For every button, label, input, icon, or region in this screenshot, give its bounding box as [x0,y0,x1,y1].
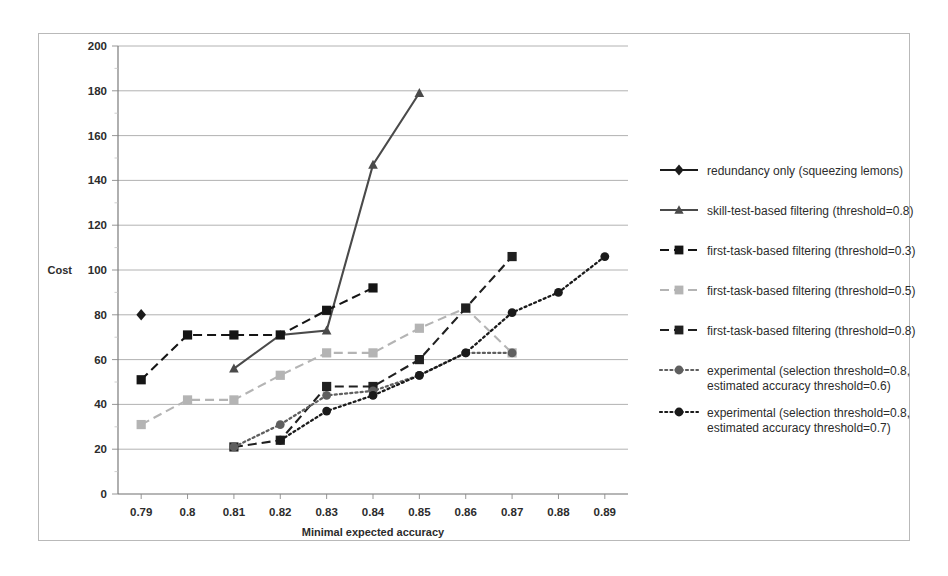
legend-item[interactable]: experimental (selection threshold=0.8,es… [660,406,910,435]
legend-item[interactable]: experimental (selection threshold=0.8,es… [660,364,910,393]
chart-legend: redundancy only (squeezing lemons)skill-… [660,164,915,435]
legend-marker [675,408,684,417]
data-series [230,348,517,451]
x-axis-title: Minimal expected accuracy [302,526,445,538]
data-point [183,330,192,339]
y-axis-tick-label: 20 [94,443,107,455]
legend-marker [675,286,684,295]
data-point [230,443,239,452]
data-series [136,309,146,321]
y-axis-tick-label: 60 [94,354,107,366]
data-point [137,420,146,429]
data-point [508,348,517,357]
y-axis-tick-label: 100 [88,264,107,276]
data-point [507,252,516,261]
data-point [229,395,238,404]
x-axis-tick-label: 0.83 [315,506,337,518]
data-point [600,252,609,261]
x-axis-tick-label: 0.85 [408,506,431,518]
x-axis-tick-label: 0.87 [501,506,523,518]
data-point [322,382,331,391]
legend-label: first-task-based filtering (threshold=0.… [707,284,915,298]
legend-label: estimated accuracy threshold=0.6) [707,379,891,393]
x-axis: 0.790.80.810.820.830.840.850.860.870.880… [118,494,628,538]
data-point [276,371,285,380]
y-axis-tick-label: 160 [88,130,107,142]
x-axis-tick-label: 0.8 [180,506,197,518]
data-point [137,375,146,384]
data-point [322,348,331,357]
x-axis-tick-label: 0.89 [594,506,616,518]
data-point [415,371,424,380]
data-point [183,395,192,404]
data-point [461,303,470,312]
x-axis-tick-label: 0.82 [269,506,291,518]
x-axis-tick-label: 0.88 [547,506,570,518]
series-line [141,288,373,380]
data-point [322,391,331,400]
x-axis-tick-label: 0.86 [455,506,477,518]
series-line [234,353,512,447]
legend-item[interactable]: redundancy only (squeezing lemons) [660,164,903,178]
data-series [229,88,424,372]
legend-label: first-task-based filtering (threshold=0.… [707,244,915,258]
chart-figure: 020406080100120140160180200Cost0.790.80.… [0,0,948,576]
data-point [276,330,285,339]
data-series [137,283,378,384]
chart-canvas: 020406080100120140160180200Cost0.790.80.… [0,0,948,576]
legend-label: redundancy only (squeezing lemons) [707,164,903,178]
y-axis-tick-label: 140 [88,174,107,186]
legend-item[interactable]: skill-test-based filtering (threshold=0.… [660,204,913,218]
legend-marker [674,165,683,176]
y-axis-title: Cost [48,264,73,276]
y-axis-tick-label: 180 [88,85,107,97]
legend-label: skill-test-based filtering (threshold=0.… [707,204,913,218]
data-point [229,330,238,339]
legend-item[interactable]: first-task-based filtering (threshold=0.… [660,284,915,298]
data-point [276,436,285,445]
data-point [136,309,146,321]
legend-marker [675,366,684,375]
data-point [415,88,425,97]
y-axis: 020406080100120140160180200Cost [48,40,118,500]
y-axis-tick-label: 0 [101,488,107,500]
legend-marker [675,326,684,335]
x-axis-tick-label: 0.84 [362,506,385,518]
data-point [508,308,517,317]
data-point [368,348,377,357]
data-point [415,324,424,333]
data-point [368,283,377,292]
data-point [369,391,378,400]
legend-label: estimated accuracy threshold=0.7) [707,421,891,435]
data-point [554,288,563,297]
legend-label: experimental (selection threshold=0.8, [707,364,910,378]
legend-item[interactable]: first-task-based filtering (threshold=0.… [660,244,915,258]
data-point [415,355,424,364]
y-axis-tick-label: 80 [94,309,107,321]
data-point [322,407,331,416]
legend-marker [675,246,684,255]
x-axis-tick-label: 0.79 [130,506,152,518]
data-point [461,348,470,357]
data-point [276,420,285,429]
data-point [322,306,331,315]
legend-label: experimental (selection threshold=0.8, [707,406,910,420]
y-axis-tick-label: 120 [88,219,107,231]
legend-item[interactable]: first-task-based filtering (threshold=0.… [660,324,915,338]
y-axis-tick-label: 40 [94,398,107,410]
legend-label: first-task-based filtering (threshold=0.… [707,324,915,338]
x-axis-tick-label: 0.81 [223,506,246,518]
y-axis-tick-label: 200 [88,40,107,52]
